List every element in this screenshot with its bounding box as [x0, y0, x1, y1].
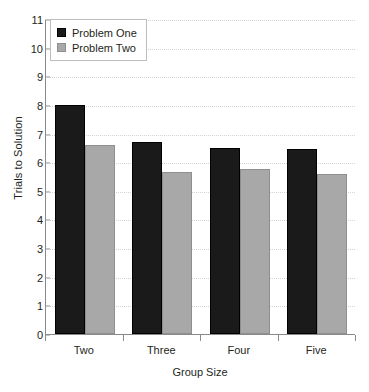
y-tick-label: 0 — [0, 329, 43, 341]
y-tick-label: 9 — [0, 71, 43, 83]
plot-area — [45, 20, 355, 335]
x-tick-mark — [45, 335, 46, 341]
legend-label-problem-two: Problem Two — [72, 42, 136, 54]
bar — [210, 148, 240, 334]
x-tick-mark — [278, 335, 279, 341]
x-tick-label: Two — [74, 344, 94, 356]
bar — [85, 145, 115, 334]
x-tick-mark — [123, 335, 124, 341]
legend-item: Problem One — [57, 25, 137, 40]
y-tick-label: 7 — [0, 129, 43, 141]
bar — [317, 174, 347, 334]
x-tick-label: Four — [227, 344, 250, 356]
bar — [132, 142, 162, 334]
legend: Problem One Problem Two — [50, 19, 147, 61]
y-tick-label: 6 — [0, 157, 43, 169]
y-tick-label: 3 — [0, 243, 43, 255]
bar — [55, 105, 85, 334]
x-axis-label: Group Size — [45, 366, 355, 378]
y-tick-label: 4 — [0, 214, 43, 226]
y-tick-label: 11 — [0, 14, 43, 26]
legend-item: Problem Two — [57, 40, 137, 55]
x-tick-label: Three — [147, 344, 176, 356]
y-tick-label: 10 — [0, 43, 43, 55]
bar-chart-figure: Trials to Solution 01234567891011 TwoThr… — [0, 0, 369, 392]
bar — [240, 169, 270, 334]
legend-swatch-problem-two — [57, 43, 66, 52]
y-tick-label: 5 — [0, 186, 43, 198]
y-tick-label: 1 — [0, 300, 43, 312]
y-tick-label: 2 — [0, 272, 43, 284]
y-tick-label: 8 — [0, 100, 43, 112]
legend-label-problem-one: Problem One — [72, 27, 137, 39]
x-tick-mark — [200, 335, 201, 341]
legend-swatch-problem-one — [57, 28, 66, 37]
bar — [162, 172, 192, 334]
x-tick-mark — [355, 335, 356, 341]
bar — [287, 149, 317, 334]
x-tick-label: Five — [306, 344, 327, 356]
bars-layer — [46, 20, 355, 334]
